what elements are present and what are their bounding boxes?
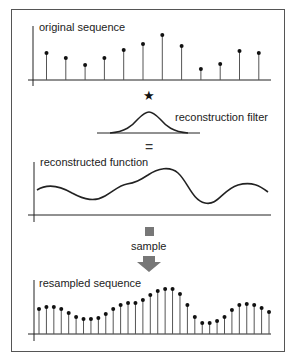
sample-dot — [119, 303, 123, 307]
sample-dot — [185, 303, 189, 307]
sample-square-icon — [145, 227, 154, 236]
original-sequence-label: original sequence — [39, 21, 125, 33]
sample-dot — [133, 301, 137, 305]
sample-dot — [218, 62, 222, 66]
sample-dot — [156, 289, 160, 293]
sample-dot — [104, 312, 108, 316]
sample-dot — [257, 51, 261, 55]
sample-dot — [59, 307, 63, 311]
sample-dot — [96, 316, 100, 320]
resampled-sequence-label: resampled sequence — [39, 277, 141, 289]
reconstructed-function-label: reconstructed function — [40, 156, 148, 168]
equals-icon: = — [145, 139, 153, 155]
sample-dot — [199, 67, 203, 71]
sample-dot — [37, 307, 41, 311]
sample-dot — [163, 287, 167, 291]
sample-dot — [208, 321, 212, 325]
sample-dot — [267, 310, 271, 314]
sample-dot — [237, 303, 241, 307]
sample-dot — [89, 317, 93, 321]
original-sequence-plot — [28, 26, 271, 86]
sample-dot — [260, 306, 264, 310]
sample-label: sample — [131, 240, 166, 252]
sample-dot — [160, 33, 164, 37]
sample-dot — [252, 303, 256, 307]
sample-dot — [178, 292, 182, 296]
sample-dot — [238, 49, 242, 53]
sample-dot — [193, 315, 197, 319]
sample-dot — [102, 56, 106, 60]
diagram-canvas: ★ = — [0, 0, 290, 360]
sample-dot — [141, 298, 145, 302]
sample-dot — [67, 311, 71, 315]
sample-dot — [223, 315, 227, 319]
sample-dot — [74, 315, 78, 319]
convolve-icon: ★ — [143, 88, 155, 103]
sample-dot — [215, 319, 219, 323]
sample-dot — [245, 302, 249, 306]
sample-dot — [122, 48, 126, 52]
sample-dot — [141, 42, 145, 46]
resampled-sequence-plot — [28, 280, 271, 341]
caption-fragment — [0, 354, 290, 360]
reconstruction-filter-label: reconstruction filter — [175, 111, 268, 123]
sample-dot — [45, 51, 49, 55]
sample-dot — [148, 293, 152, 297]
down-arrow-icon — [137, 256, 161, 272]
sample-dot — [52, 305, 56, 309]
sample-dot — [64, 56, 68, 60]
sample-dot — [44, 305, 48, 309]
sample-dot — [83, 63, 87, 67]
sample-dot — [111, 307, 115, 311]
sample-dot — [82, 317, 86, 321]
sample-dot — [180, 44, 184, 48]
sample-dot — [126, 301, 130, 305]
reconstructed-function-plot — [28, 162, 271, 222]
sample-dot — [200, 321, 204, 325]
sample-dot — [230, 308, 234, 312]
sample-dot — [171, 287, 175, 291]
